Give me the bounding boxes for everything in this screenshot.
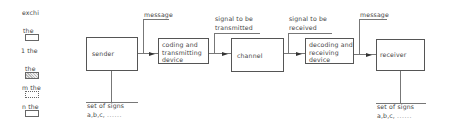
label-leader-signal-received <box>288 33 289 53</box>
sign-set-sender-ellipsis: ...... <box>107 111 122 118</box>
node-coding-line2: transmitting <box>162 49 202 57</box>
node-coding-line1: coding and <box>162 41 198 49</box>
sign-set-receiver-line1: set of signs <box>377 103 414 110</box>
node-decoding-line1: decoding and <box>309 41 353 49</box>
sign-set-sender-letters: a,b,c, <box>87 111 105 118</box>
node-receiver: receiver <box>376 39 425 71</box>
node-coding-device: coding and transmitting device <box>158 38 209 64</box>
edge-decoding-receiver <box>354 54 376 55</box>
sign-set-receiver-letters: a,b,c, <box>377 112 395 119</box>
label-underline-message-1 <box>143 19 169 20</box>
node-sender: sender <box>86 37 138 71</box>
node-channel: channel <box>231 38 284 72</box>
edge-label-signal-received-2: received <box>289 24 317 31</box>
legend-label-2: 1 the <box>21 47 38 54</box>
edge-label-signal-transmitted-2: transmitted <box>215 24 253 31</box>
arrowhead-icon <box>296 52 302 56</box>
sign-set-receiver-ellipsis: ...... <box>397 112 412 119</box>
sign-set-leader-sender <box>111 71 112 102</box>
label-leader-message-1 <box>143 19 144 53</box>
label-underline-signal-received <box>288 33 332 34</box>
sign-set-receiver-line2: a,b,c, ...... <box>377 112 412 119</box>
node-channel-label: channel <box>237 52 263 60</box>
legend-box-plain-2 <box>25 110 39 117</box>
legend-label-exchange: exchi <box>22 9 39 16</box>
legend-box-dotted <box>25 91 39 98</box>
sign-set-leader-receiver <box>400 71 401 103</box>
node-decoding-line2: receiving <box>309 49 339 57</box>
edge-label-signal-transmitted-1: signal to be <box>215 15 253 22</box>
edge-label-message-1: message <box>144 11 173 18</box>
sign-set-sender-line1: set of signs <box>87 102 124 109</box>
sign-set-sender-line2: a,b,c, ...... <box>87 111 122 118</box>
node-decoding-line3: device <box>309 56 330 64</box>
node-coding-line3: device <box>162 56 183 64</box>
label-underline-signal-transmitted <box>214 33 260 34</box>
label-leader-message-2 <box>359 19 360 54</box>
legend-box-hatched <box>25 72 39 79</box>
arrowhead-icon <box>222 52 228 56</box>
edge-sender-coding <box>138 53 158 54</box>
node-decoding-device: decoding and receiving device <box>305 38 354 64</box>
node-sender-label: sender <box>92 50 114 58</box>
edge-label-signal-received-1: signal to be <box>289 15 327 22</box>
label-leader-signal-transmitted <box>214 33 215 53</box>
edge-label-message-2: message <box>360 11 389 18</box>
arrowhead-icon <box>366 53 372 57</box>
arrowhead-icon <box>149 52 155 56</box>
node-receiver-label: receiver <box>380 51 406 59</box>
legend-box-plain <box>25 34 39 41</box>
label-underline-message-2 <box>359 19 387 20</box>
